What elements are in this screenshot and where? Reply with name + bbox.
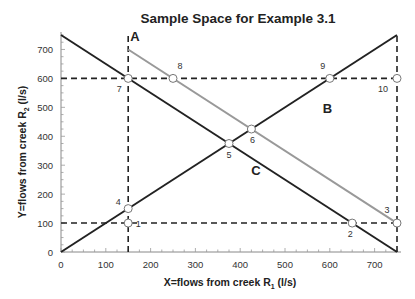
line-label-a: A: [130, 29, 140, 44]
x-tick-label: 500: [277, 259, 293, 270]
y-tick-label: 0: [48, 247, 53, 258]
sample-point-label: 4: [116, 197, 121, 207]
chart-title: Sample Space for Example 3.1: [140, 11, 336, 26]
x-tick-label: 400: [232, 259, 248, 270]
sample-point-3: [393, 219, 401, 227]
sample-point-7: [124, 74, 132, 82]
y-tick-label: 300: [37, 160, 53, 171]
sample-point-10: [393, 74, 401, 82]
sample-point-label: 6: [250, 135, 255, 145]
line-a: [128, 49, 397, 223]
x-tick-label: 300: [187, 259, 203, 270]
sample-point-label: 8: [177, 61, 182, 71]
sample-point-5: [225, 140, 233, 148]
x-tick-label: 100: [98, 259, 114, 270]
sample-point-label: 5: [226, 150, 231, 160]
sample-point-4: [124, 205, 132, 213]
y-tick-label: 400: [37, 131, 53, 142]
sample-point-label: 9: [320, 61, 325, 71]
y-tick-label: 500: [37, 102, 53, 113]
x-tick-label: 700: [367, 259, 383, 270]
sample-point-label: 2: [348, 229, 353, 239]
sample-point-6: [247, 125, 255, 133]
x-tick-label: 200: [143, 259, 159, 270]
y-tick-label: 100: [37, 218, 53, 229]
sample-points: 12345678910: [116, 61, 401, 239]
sample-point-label: 10: [378, 84, 388, 94]
line-label-b: B: [323, 101, 332, 116]
sample-space-chart: Sample Space for Example 3.1 01002003004…: [0, 0, 415, 299]
sample-point-label: 1: [136, 219, 141, 229]
sample-point-1: [124, 219, 132, 227]
y-tick-label: 200: [37, 189, 53, 200]
sample-point-label: 3: [384, 205, 389, 215]
sample-point-8: [169, 74, 177, 82]
y-tick-label: 700: [37, 44, 53, 55]
x-tick-label: 600: [322, 259, 338, 270]
line-label-c: C: [251, 163, 261, 178]
x-tick-label: 0: [58, 259, 63, 270]
sample-point-label: 7: [117, 84, 122, 94]
x-axis-label: X=flows from creek R1 (l/s): [164, 276, 297, 290]
y-tick-label: 600: [37, 73, 53, 84]
y-axis-label: Y=flows from creek R2 (l/s): [16, 86, 30, 219]
sample-point-2: [348, 219, 356, 227]
sample-point-9: [326, 74, 334, 82]
